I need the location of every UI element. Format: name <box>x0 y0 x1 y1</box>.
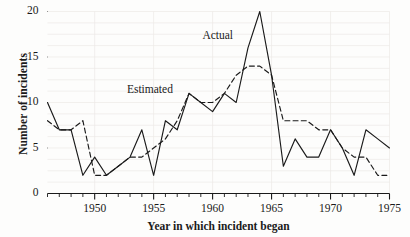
x-tick-label: 1960 <box>193 202 233 214</box>
series-line-estimated <box>48 66 390 175</box>
y-tick-label: 20 <box>17 4 39 16</box>
y-tick-label: 15 <box>17 50 39 62</box>
y-tick-label: 5 <box>17 141 39 153</box>
annotation-actual: Actual <box>202 29 233 41</box>
y-tick-label: 0 <box>17 186 39 198</box>
chart-figure: Number of incidents Year in which incide… <box>0 0 410 237</box>
x-tick-label: 1955 <box>134 202 174 214</box>
x-tick-label: 1965 <box>252 202 292 214</box>
annotation-estimated: Estimated <box>127 83 173 95</box>
y-tick-label: 10 <box>17 95 39 107</box>
x-tick-label: 1970 <box>311 202 351 214</box>
x-tick-label: 1950 <box>75 202 115 214</box>
x-tick-label: 1975 <box>370 202 410 214</box>
